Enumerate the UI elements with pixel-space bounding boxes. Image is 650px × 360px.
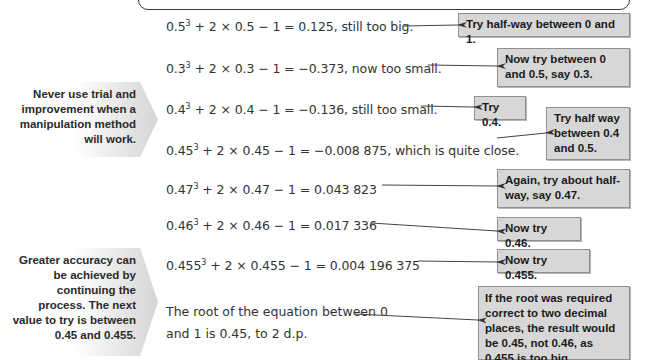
arrow-icon [403,25,458,26]
arrow-icon [382,185,497,186]
arrow-icon [418,261,497,262]
arrow-icon [428,65,497,66]
arrow-icon [355,314,478,320]
arrow-icon [371,223,497,231]
arrows-layer [0,0,650,360]
arrow-icon [421,106,474,107]
arrow-icon [497,133,546,138]
